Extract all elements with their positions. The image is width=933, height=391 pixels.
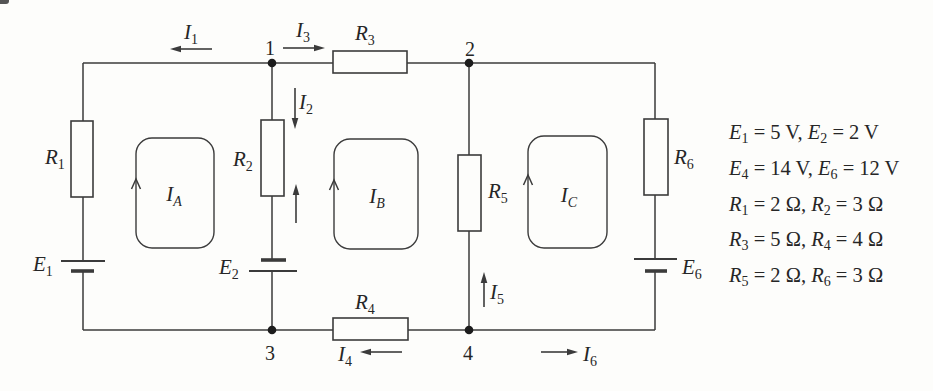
battery-e1-label: E1 xyxy=(32,252,53,279)
resistor-r1-label: R1 xyxy=(44,145,65,172)
node-1-dot xyxy=(268,59,277,68)
value-line-2: E4 = 14 V, E6 = 12 V xyxy=(729,154,899,190)
value-line-3: R1 = 2 Ω, R2 = 3 Ω xyxy=(729,190,899,226)
battery-e2 xyxy=(249,260,297,271)
current-arrow-r2-up xyxy=(293,184,300,223)
resistor-r2-label: R2 xyxy=(232,147,253,174)
value-line-5: R5 = 2 Ω, R6 = 3 Ω xyxy=(729,261,899,297)
loop-ia-label: IA xyxy=(165,182,182,209)
current-i2-label: I2 xyxy=(298,90,313,117)
circuit-figure: 1 2 3 4 R1 R2 R3 R4 R5 R6 E1 E2 E6 I1 I2… xyxy=(0,0,933,391)
resistor-r6 xyxy=(644,119,668,195)
current-i4-label: I4 xyxy=(337,342,352,369)
node-4-dot xyxy=(465,326,474,335)
node-3-label: 3 xyxy=(265,342,275,364)
current-i5-label: I5 xyxy=(489,280,504,307)
resistor-r4 xyxy=(333,318,408,340)
current-arrow-i2 xyxy=(292,88,299,129)
current-i6-label: I6 xyxy=(582,342,597,369)
resistor-r5-label: R5 xyxy=(487,179,508,206)
battery-e6 xyxy=(634,259,677,271)
battery-e2-label: E2 xyxy=(218,255,239,282)
node-2-label: 2 xyxy=(465,38,475,60)
source-labels: E1 E2 E6 xyxy=(32,252,702,282)
resistor-r4-label: R4 xyxy=(354,290,375,317)
resistor-r6-label: R6 xyxy=(673,145,694,172)
node-4-label: 4 xyxy=(463,342,473,364)
battery-e6-label: E6 xyxy=(681,255,702,282)
resistor-r2 xyxy=(261,120,284,196)
value-line-1: E1 = 5 V, E2 = 2 V xyxy=(729,118,899,154)
resistor-r1 xyxy=(71,121,93,197)
value-line-4: R3 = 5 Ω, R4 = 4 Ω xyxy=(729,225,899,261)
node-1-label: 1 xyxy=(265,37,275,59)
batteries xyxy=(61,259,677,271)
current-arrow-i4 xyxy=(360,349,402,356)
current-i3-label: I3 xyxy=(295,18,310,45)
node-3-dot xyxy=(268,326,277,335)
resistor-r3 xyxy=(333,51,407,73)
current-arrow-i5 xyxy=(481,272,488,307)
loop-labels: IA IB IC xyxy=(165,182,578,211)
current-i1-label: I1 xyxy=(183,20,198,47)
current-arrow-i3 xyxy=(283,45,325,52)
battery-e1 xyxy=(61,261,105,271)
current-arrow-i6 xyxy=(541,349,578,356)
loop-ic-label: IC xyxy=(560,183,578,210)
resistor-r3-label: R3 xyxy=(354,21,375,48)
values-block: E1 = 5 V, E2 = 2 V E4 = 14 V, E6 = 12 V … xyxy=(729,118,899,297)
loop-ib-label: IB xyxy=(368,184,385,211)
resistor-r5 xyxy=(458,155,481,231)
